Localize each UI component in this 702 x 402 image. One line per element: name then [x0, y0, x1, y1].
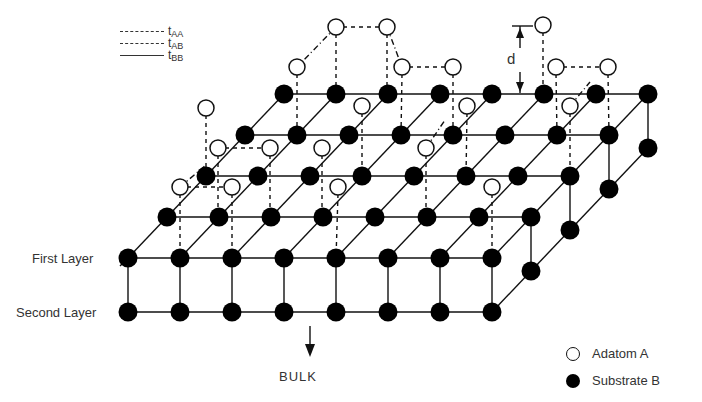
- substrate-atom: [366, 208, 385, 227]
- dashed-line-icon: [120, 43, 164, 44]
- adatom: [600, 59, 616, 75]
- substrate-atom: [496, 126, 515, 145]
- substrate-atom: [314, 208, 333, 227]
- adatom: [379, 19, 395, 35]
- substrate-atom: [379, 249, 398, 268]
- substrate-atom: [600, 180, 619, 199]
- substrate-atom: [288, 126, 307, 145]
- substrate-atom: [548, 126, 567, 145]
- substrate-atom: [379, 303, 398, 322]
- substrate-atom: [392, 126, 411, 145]
- substrate-atom: [379, 85, 398, 104]
- adatom: [548, 59, 564, 75]
- substrate-atom: [275, 249, 294, 268]
- substrate-atom: [418, 208, 437, 227]
- substrate-atom: [171, 303, 190, 322]
- lattice-diagram: [0, 0, 702, 402]
- substrate-atom: [561, 221, 580, 240]
- substrate-atom: [236, 126, 255, 145]
- substrate-atom: [600, 126, 619, 145]
- substrate-atom: [639, 139, 658, 158]
- substrate-atom: [561, 167, 580, 186]
- substrate-atom: [275, 85, 294, 104]
- substrate-atom: [431, 303, 450, 322]
- adatom: [314, 140, 330, 156]
- substrate-atom: [431, 249, 450, 268]
- substrate-atom: [587, 85, 606, 104]
- adatom: [210, 140, 226, 156]
- open-circle-icon: [566, 347, 580, 361]
- adatom: [562, 98, 578, 114]
- substrate-atom: [483, 303, 502, 322]
- adatom: [535, 17, 551, 33]
- adatom: [330, 179, 346, 195]
- arrow-down-icon: [516, 82, 524, 92]
- substrate-atom: [119, 303, 138, 322]
- substrate-atom: [327, 249, 346, 268]
- substrate-atom: [470, 208, 489, 227]
- dash-dot-line-icon: [120, 31, 164, 32]
- substrate-atom: [522, 208, 541, 227]
- substrate-atom: [249, 167, 268, 186]
- adatom: [445, 59, 461, 75]
- height-d-label: d: [507, 50, 515, 67]
- substrate-atom: [639, 85, 658, 104]
- adatom: [262, 140, 278, 156]
- substrate-atom: [431, 85, 450, 104]
- bond-key-tab: tAB: [120, 37, 183, 49]
- adatom: [198, 100, 214, 116]
- substrate-atom: [275, 303, 294, 322]
- substrate-atom: [119, 249, 138, 268]
- substrate-atom: [210, 208, 229, 227]
- substrate-atom: [327, 303, 346, 322]
- adatom: [394, 59, 410, 75]
- adatom: [328, 19, 344, 35]
- substrate-atom: [327, 85, 346, 104]
- substrate-atom: [405, 167, 424, 186]
- first-layer-label: First Layer: [32, 251, 93, 266]
- adatom: [418, 140, 434, 156]
- substrate-atom: [223, 249, 242, 268]
- substrate-atom: [522, 262, 541, 281]
- substrate-atom: [509, 167, 528, 186]
- substrate-atom: [301, 167, 320, 186]
- bond-key-tbb: tBB: [120, 49, 183, 61]
- bulk-label: BULK: [279, 369, 317, 384]
- substrate-atom: [483, 85, 502, 104]
- adatom: [459, 98, 475, 114]
- arrow-up-icon: [516, 28, 524, 38]
- substrate-atom: [223, 303, 242, 322]
- adatom: [224, 179, 240, 195]
- substrate-atom: [262, 208, 281, 227]
- adatom: [289, 59, 305, 75]
- filled-circle-icon: [566, 374, 580, 388]
- substrate-atom: [483, 249, 502, 268]
- adatom-lattice-figure: tAA tAB tBB First Layer Second Layer BUL…: [0, 0, 702, 402]
- substrate-atom: [457, 167, 476, 186]
- substrate-atom: [353, 167, 372, 186]
- adatom: [172, 179, 188, 195]
- substrate-atom: [444, 126, 463, 145]
- legend-adatom: Adatom A: [566, 346, 648, 361]
- arrow-down-icon: [305, 344, 315, 357]
- bond-key-taa: tAA: [120, 25, 183, 37]
- substrate-atom: [340, 126, 359, 145]
- substrate-atom: [158, 208, 177, 227]
- adatom: [484, 179, 500, 195]
- adatom: [354, 98, 370, 114]
- legend-substrate: Substrate B: [566, 373, 660, 388]
- substrate-atom: [535, 85, 554, 104]
- second-layer-label: Second Layer: [16, 305, 96, 320]
- solid-line-icon: [120, 55, 164, 56]
- substrate-atom: [171, 249, 190, 268]
- substrate-atom: [197, 167, 216, 186]
